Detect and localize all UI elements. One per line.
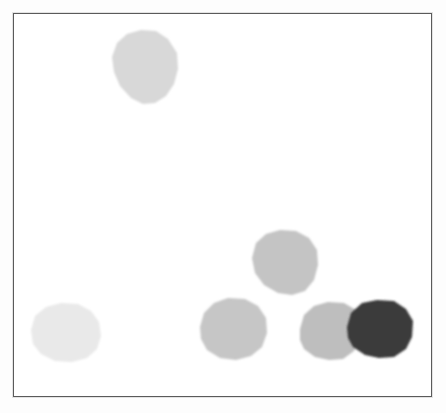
particle-top-light — [112, 30, 178, 104]
particle-dark — [347, 300, 413, 358]
particle-bottom-left-lightest — [31, 303, 101, 362]
particle-upper-middle-gray — [252, 230, 318, 295]
particle-lower-middle-gray — [200, 298, 267, 360]
figure-root — [0, 0, 446, 413]
particle-layer — [0, 0, 446, 413]
